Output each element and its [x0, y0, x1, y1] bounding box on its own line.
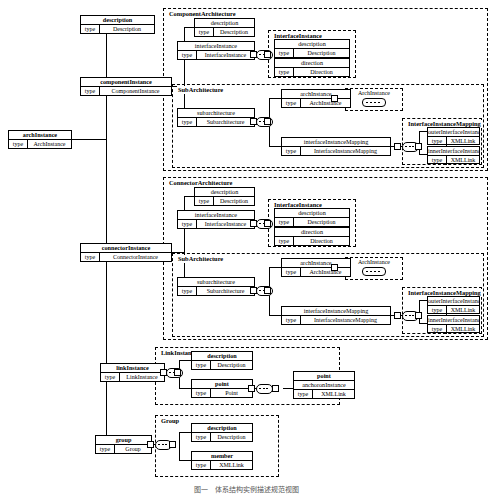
node-map-bottom-inner[interactable]: innerInterfaceInstance type XMLLink: [427, 315, 480, 333]
node-name: description: [195, 19, 254, 28]
node-map-bottom-outer[interactable]: outerInterfaceInstance type XMLLink: [427, 296, 480, 314]
schema-diagram: ComponentArchitecture InterfaceInstance …: [0, 0, 493, 496]
terminal-square: [264, 118, 271, 125]
node-name: innerInterfaceInstance: [428, 316, 479, 325]
type-value: XMLLink: [211, 461, 252, 470]
node-li-point[interactable]: point type Point: [191, 379, 253, 398]
type-value: InterfaceInstance: [197, 220, 254, 229]
type-value: Description: [214, 28, 254, 37]
type-key: type: [195, 197, 214, 206]
type-key: type: [101, 373, 120, 382]
node-link-instance[interactable]: linkInstance type LinkInstance: [100, 363, 165, 382]
node-sa-bottom-archinstance[interactable]: archInstance type ArchInstance: [281, 258, 351, 277]
type-key: type: [282, 268, 301, 277]
type-key: type: [428, 156, 447, 165]
type-value: Subarchitecture: [197, 287, 254, 296]
terminal-square: [264, 51, 271, 58]
node-grp-member[interactable]: member type XMLLink: [191, 451, 253, 470]
type-value: InterfaceInstanceMapping: [301, 316, 390, 325]
terminal-square: [169, 441, 176, 448]
node-sa-top-mapping[interactable]: interfaceInstanceMapping type InterfaceI…: [281, 137, 391, 156]
type-key: type: [81, 87, 100, 96]
node-name: description: [275, 40, 349, 49]
type-key: type: [282, 147, 301, 156]
terminal-square: [264, 287, 271, 294]
type-key: type: [81, 25, 100, 34]
node-cna-subarchitecture[interactable]: subarchitecture type Subarchitecture: [177, 277, 255, 296]
recursion-stub-label: ArchInstance: [346, 258, 402, 267]
node-name: interfaceInstance: [178, 42, 254, 51]
type-value: ArchInstance: [301, 268, 350, 277]
node-name: description: [192, 424, 252, 433]
type-key: type: [178, 287, 197, 296]
group-label-sub-architecture-bottom: SubArchitecture: [177, 255, 224, 263]
type-key: type: [275, 218, 294, 227]
type-value: ArchInstance: [28, 140, 71, 149]
node-li-description[interactable]: description type Description: [191, 351, 253, 370]
node-connector-instance[interactable]: connectorInstance type ConnectorInstance: [80, 243, 172, 262]
node-ii-top-description[interactable]: description type Description: [274, 39, 350, 58]
group-label-group-block: Group: [160, 417, 180, 425]
node-description[interactable]: description type Description: [80, 15, 155, 34]
type-value: InterfaceInstance: [197, 51, 254, 60]
type-key: type: [294, 390, 313, 399]
node-sa-top-archinstance[interactable]: archInstance type ArchInstance: [281, 89, 351, 108]
node-cna-description[interactable]: description type Description: [194, 187, 255, 206]
type-key: type: [282, 99, 301, 108]
type-value: ConnectorInstance: [100, 253, 171, 262]
type-value: Description: [294, 49, 349, 58]
type-value: XMLLink: [447, 137, 479, 146]
type-key: type: [275, 68, 294, 77]
node-name: member: [192, 452, 252, 461]
type-value: Direction: [294, 68, 349, 77]
node-point-block[interactable]: point anchoronInstance type XMLLink: [293, 371, 355, 399]
terminal-square: [147, 441, 154, 448]
type-value: XMLLink: [447, 325, 479, 334]
figure-caption: 图一 体系结构实例描述规范视图: [0, 486, 493, 495]
type-value: LinkInstance: [120, 373, 164, 382]
type-key: type: [81, 253, 100, 262]
terminal-square: [331, 95, 338, 102]
type-value: Description: [214, 197, 254, 206]
type-value: Description: [211, 433, 252, 442]
node-ii-bottom-description[interactable]: description type Description: [274, 208, 350, 227]
node-grp-description[interactable]: description type Description: [191, 423, 253, 442]
type-key: type: [275, 237, 294, 246]
node-sa-bottom-mapping[interactable]: interfaceInstanceMapping type InterfaceI…: [281, 306, 391, 325]
node-ca-subarchitecture[interactable]: subarchitecture type Subarchitecture: [177, 108, 255, 127]
node-ca-description[interactable]: description type Description: [194, 18, 255, 37]
node-map-top-inner[interactable]: innerInterfaceInstance type XMLLink: [427, 146, 480, 164]
root-stem: [72, 139, 106, 140]
node-name: direction: [275, 59, 349, 68]
type-key: type: [178, 220, 197, 229]
node-name: archInstance: [9, 131, 71, 140]
node-name: linkInstance: [101, 364, 164, 373]
type-key: type: [275, 49, 294, 58]
node-name: point: [192, 380, 252, 389]
node-group[interactable]: group type Group: [95, 435, 152, 454]
terminal-square: [248, 385, 255, 392]
type-value: XMLLink: [447, 306, 479, 315]
type-key: type: [9, 140, 28, 149]
point-block-label: point: [294, 372, 354, 381]
node-map-top-outer[interactable]: outerInterfaceInstance type XMLLink: [427, 127, 480, 145]
node-name: interfaceInstanceMapping: [282, 138, 390, 147]
node-ii-top-direction[interactable]: direction type Direction: [274, 58, 350, 77]
node-name: interfaceInstanceMapping: [282, 307, 390, 316]
type-value: Description: [294, 218, 349, 227]
node-name: interfaceInstance: [178, 211, 254, 220]
node-ii-bottom-direction[interactable]: direction type Direction: [274, 227, 350, 246]
terminal-square: [415, 312, 422, 319]
node-ca-interface-instance[interactable]: interfaceInstance type InterfaceInstance: [177, 41, 255, 60]
type-key: type: [428, 306, 447, 315]
type-value: Group: [115, 445, 151, 454]
type-value: Point: [211, 389, 252, 398]
node-cna-interface-instance[interactable]: interfaceInstance type InterfaceInstance: [177, 210, 255, 229]
sequence-compositor-icon: [362, 267, 386, 276]
node-name: componentInstance: [81, 78, 171, 87]
node-component-instance[interactable]: componentInstance type ComponentInstance: [80, 77, 172, 96]
node-name: group: [96, 436, 151, 445]
node-name: subarchitecture: [178, 278, 254, 287]
node-archinstance-root[interactable]: archInstance type ArchInstance: [8, 130, 72, 149]
node-name: description: [275, 209, 349, 218]
